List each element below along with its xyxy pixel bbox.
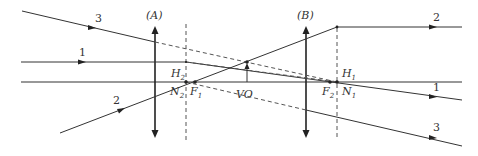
point-f2 [328, 80, 332, 84]
point-n1 [335, 80, 339, 84]
h1-label: H1 [341, 67, 356, 82]
ray-3-out-label: 3 [433, 121, 440, 134]
virtual-object-arrow-icon [245, 63, 250, 69]
h2-label: H2 [170, 67, 186, 82]
n1-label: N1 [341, 85, 356, 100]
lens-a: (A) [146, 9, 163, 138]
point-h1 [336, 26, 339, 29]
vo-label: VO [236, 88, 253, 101]
n2-label: N2 [169, 85, 185, 100]
ray-1-out-label: 1 [433, 81, 440, 94]
lens-a-label: (A) [146, 9, 163, 22]
ray-3: 3 3 [22, 11, 462, 146]
virtual-object: VO [236, 60, 253, 101]
ray-2-out-arrow-icon [429, 25, 437, 30]
optics-diagram: (A) (B) 3 3 1 1 2 2 [0, 0, 478, 156]
ray-2-out-label: 2 [433, 11, 440, 24]
ray-2-in-label: 2 [113, 94, 120, 107]
f1-label: F1 [189, 85, 202, 100]
point-h2 [185, 61, 187, 63]
lens-a-bottom-arrow-icon [152, 130, 159, 138]
f2-label: F2 [321, 85, 335, 100]
ray-2-in-arrow-icon [117, 108, 125, 114]
lens-a-top-arrow-icon [152, 26, 159, 34]
lens-b-label: (B) [297, 9, 314, 22]
ray-3-in-label: 3 [95, 12, 102, 25]
ray-1-in-label: 1 [79, 46, 86, 59]
ray-1-in-arrow-icon [78, 60, 86, 65]
lens-b-top-arrow-icon [303, 26, 310, 34]
point-f1 [193, 80, 197, 84]
lens-b-bottom-arrow-icon [303, 130, 310, 138]
